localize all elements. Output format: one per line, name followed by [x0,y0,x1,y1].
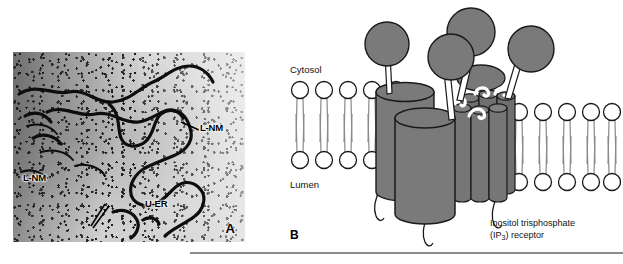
micrograph-membrane-traces [13,52,245,242]
protein-cylinder-front [395,108,455,224]
lumen-label: Lumen [290,179,319,190]
panel-a-micrograph: L-NM L-NM U-ER U-M L-ER A [13,52,245,242]
figure-root: L-NM L-NM U-ER U-M L-ER A [0,0,623,264]
receptor-caption-subscript: 3 [502,234,506,241]
micrograph-label-l-nm-top: L-NM [200,122,223,133]
cytosol-label: Cytosol [290,64,322,75]
right-lipid-bilayer [511,104,621,191]
panel-a-letter: A [226,221,235,236]
lollipop-heads [365,8,554,80]
panel-b-schematic: Cytosol Lumen Inositol trisphosphate (IP… [283,2,621,254]
micrograph-label-l-nm-left: L-NM [23,172,46,183]
micrograph-label-u-er: U-ER [145,198,167,209]
receptor-caption-line1: Inositol trisphosphate [490,218,575,230]
receptor-caption-line2: (IP3) receptor [490,230,575,242]
receptor-caption-pre: (IP [490,230,502,240]
figure-divider-rule [190,252,623,254]
ip3-receptor-diagram [283,2,621,254]
panel-b-letter: B [290,228,299,242]
receptor-caption: Inositol trisphosphate (IP3) receptor [490,218,575,241]
receptor-caption-post: ) receptor [505,230,544,240]
